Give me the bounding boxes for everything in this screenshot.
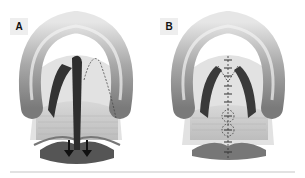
- bottom-divider: [10, 171, 295, 173]
- panel-b: B: [152, 0, 304, 178]
- panel-label-a: A: [10, 18, 28, 35]
- panel-label-b: B: [160, 18, 178, 35]
- panel-a: A: [0, 0, 152, 178]
